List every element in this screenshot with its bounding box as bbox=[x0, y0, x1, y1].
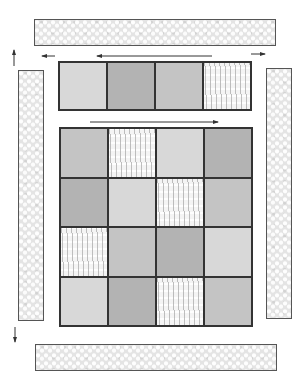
assembly-arrows bbox=[0, 0, 305, 381]
